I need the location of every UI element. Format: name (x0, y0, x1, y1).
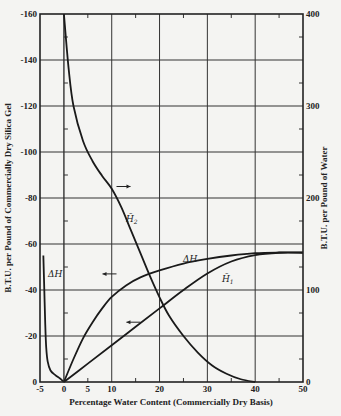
curve-label-h2: H̄2 (125, 213, 138, 225)
x-tick-label: 5 (86, 384, 91, 394)
y-right-tick-label: 100 (306, 285, 320, 295)
y-right-tick-label: 300 (306, 101, 320, 111)
x-tick-label: 20 (155, 384, 165, 394)
y-left-tick-label: -60 (25, 239, 37, 249)
curve-label-h1: H̄1 (221, 273, 234, 285)
y-left-tick-label: -120 (21, 101, 38, 111)
y-left-tick-label: -140 (21, 55, 38, 65)
grid (40, 14, 303, 382)
y-left-tick-label: -100 (21, 147, 38, 157)
curve-label-dh-left: ΔH (47, 269, 62, 279)
arrow-head-icon (126, 320, 130, 324)
x-tick-label: 30 (203, 384, 213, 394)
x-tick-label: -5 (36, 384, 44, 394)
x-tick-label: 0 (62, 384, 67, 394)
chart: -50510203040500-20-40-60-80-100-120-140-… (0, 0, 341, 416)
y-axis-label-right: B.T.U. per Pound of Water (319, 147, 329, 250)
x-axis-label: Percentage Water Content (Commercially D… (69, 397, 273, 407)
curve-3 (64, 253, 303, 382)
curve-label-dh: ΔH (182, 254, 197, 264)
y-left-tick-label: -80 (25, 193, 37, 203)
y-left-tick-label: -40 (25, 285, 37, 295)
x-tick-label: 40 (251, 384, 261, 394)
y-right-tick-label: 200 (306, 193, 320, 203)
y-left-tick-label: -20 (25, 331, 37, 341)
y-left-tick-label: -160 (21, 9, 38, 19)
x-tick-label: 10 (107, 384, 117, 394)
curve-1 (64, 252, 303, 382)
arrow-head-icon (127, 185, 131, 189)
y-axis-label-left: B.T.U. per Pound of Commercially Dry Sil… (3, 103, 13, 293)
y-right-tick-label: 400 (306, 9, 320, 19)
y-right-tick-label: 0 (306, 377, 311, 387)
arrow-head-icon (103, 272, 107, 276)
y-left-tick-label: 0 (33, 377, 38, 387)
